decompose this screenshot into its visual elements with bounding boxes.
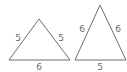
triangle-left: 5 5 6 bbox=[9, 19, 70, 72]
triangle-right: 6 6 5 bbox=[75, 5, 126, 72]
triangles-diagram: 5 5 6 6 6 5 bbox=[0, 0, 127, 72]
triangle-right-side-left-label: 6 bbox=[79, 24, 85, 34]
triangle-left-base-label: 6 bbox=[36, 62, 42, 72]
triangle-right-side-right-label: 6 bbox=[115, 24, 121, 34]
triangle-right-base-label: 5 bbox=[97, 62, 103, 72]
triangle-left-side-left-label: 5 bbox=[15, 33, 21, 43]
triangle-left-side-right-label: 5 bbox=[58, 33, 64, 43]
